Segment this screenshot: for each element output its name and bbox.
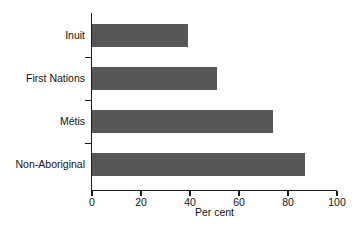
bar-first-nations <box>92 67 217 90</box>
bar-non-aboriginal <box>92 153 305 176</box>
y-tick <box>85 143 91 144</box>
y-axis-label-m-tis: Métis <box>60 115 85 127</box>
x-axis-title: Per cent <box>0 206 359 218</box>
bar-inuit <box>92 24 188 47</box>
y-axis-label-non-aboriginal: Non-Aboriginal <box>16 158 85 170</box>
y-tick <box>85 100 91 101</box>
y-tick <box>85 57 91 58</box>
bar-m-tis <box>92 110 273 133</box>
x-axis-line <box>91 190 337 191</box>
plot-area <box>92 13 337 190</box>
x-axis-title-text: Per cent <box>195 206 234 218</box>
y-axis-label-first-nations: First Nations <box>26 72 85 84</box>
y-axis-label-inuit: Inuit <box>65 29 85 41</box>
bar-chart: InuitFirst NationsMétisNon-Aboriginal 02… <box>0 0 359 229</box>
